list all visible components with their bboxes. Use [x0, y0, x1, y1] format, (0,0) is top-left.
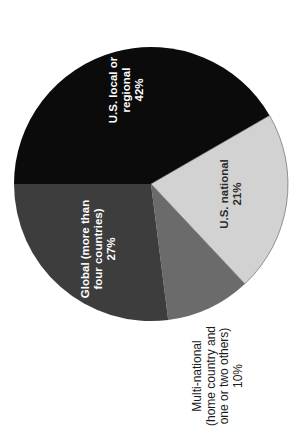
pie-chart [0, 0, 298, 434]
pie-slices [14, 47, 288, 321]
label-us-national: U.S. national 21% [218, 159, 244, 229]
label-global: Global (more than four countries) 27% [79, 200, 118, 298]
label-us-local-regional: U.S. local or regional 42% [107, 57, 146, 123]
label-multi-national: Multi-national (home country and one or … [191, 326, 245, 426]
